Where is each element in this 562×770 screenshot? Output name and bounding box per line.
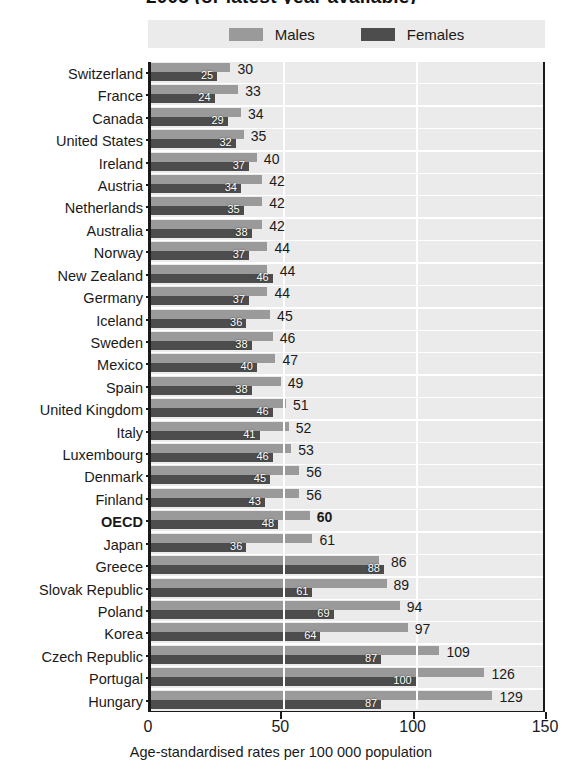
- chart-row: 4437: [151, 286, 543, 307]
- bar-males: [151, 310, 270, 319]
- bar-males: [151, 489, 299, 498]
- y-axis-label: Sweden: [0, 333, 143, 354]
- chart-row: 126100: [151, 667, 543, 688]
- bar-females: [151, 475, 270, 484]
- bar-males: [151, 646, 439, 655]
- y-axis-label: Poland: [0, 602, 143, 623]
- bar-males: [151, 601, 400, 610]
- y-axis-label: Spain: [0, 378, 143, 399]
- value-label-females: 32: [219, 136, 231, 149]
- plot-inner: 3025332434293532403742344235423844374446…: [151, 62, 543, 709]
- bar-males: [151, 242, 267, 251]
- y-axis-labels: SwitzerlandFranceCanadaUnited StatesIrel…: [0, 62, 143, 712]
- value-label-females: 36: [230, 316, 242, 329]
- value-label-males: 30: [237, 62, 253, 77]
- value-label-males: 97: [415, 622, 431, 637]
- chart-row: 3324: [151, 84, 543, 105]
- value-label-females: 69: [317, 607, 329, 620]
- y-axis-label: Australia: [0, 221, 143, 242]
- value-label-females: 40: [241, 360, 253, 373]
- chart-row: 8688: [151, 555, 543, 576]
- value-label-females: 38: [235, 338, 247, 351]
- value-label-females: 46: [256, 405, 268, 418]
- gridline: [283, 62, 285, 709]
- bar-males: [151, 85, 238, 94]
- bar-males: [151, 691, 492, 700]
- chart-row: 4938: [151, 376, 543, 397]
- value-label-males: 33: [245, 84, 261, 99]
- chart-row: 12987: [151, 690, 543, 711]
- value-label-females: 34: [225, 181, 237, 194]
- value-label-males: 49: [288, 376, 304, 391]
- y-axis-label: Ireland: [0, 154, 143, 175]
- y-axis-label: Switzerland: [0, 64, 143, 85]
- chart-row: 4446: [151, 264, 543, 285]
- value-label-males: 44: [274, 241, 290, 256]
- bar-females: [151, 700, 381, 709]
- chart-row: 9469: [151, 600, 543, 621]
- chart-row: 4437: [151, 241, 543, 262]
- chart-row: 6048: [151, 510, 543, 531]
- y-axis-label: Netherlands: [0, 198, 143, 219]
- bar-males: [151, 108, 241, 117]
- value-label-females: 100: [393, 674, 411, 687]
- value-label-males: 42: [269, 174, 285, 189]
- value-label-males: 35: [251, 129, 267, 144]
- y-axis-label: Austria: [0, 176, 143, 197]
- value-label-females: 46: [256, 450, 268, 463]
- value-label-females: 45: [254, 472, 266, 485]
- y-axis-label: Korea: [0, 624, 143, 645]
- chart-row: 5645: [151, 465, 543, 486]
- value-label-females: 24: [198, 91, 210, 104]
- value-label-females: 64: [304, 629, 316, 642]
- bar-males: [151, 422, 289, 431]
- bar-males: [151, 668, 484, 677]
- bar-males: [151, 332, 273, 341]
- y-axis-label: Finland: [0, 490, 143, 511]
- value-label-males: 51: [293, 398, 309, 413]
- chart-row: 10987: [151, 645, 543, 666]
- value-label-males: 61: [319, 533, 335, 548]
- y-axis-label: New Zealand: [0, 266, 143, 287]
- legend-item-males: Males: [229, 26, 315, 43]
- value-label-males: 52: [296, 421, 312, 436]
- x-axis-tick-labels: 050100150: [0, 718, 562, 738]
- x-axis-tick-label: 150: [532, 718, 559, 736]
- value-label-males: 94: [407, 600, 423, 615]
- bar-females: [151, 655, 381, 664]
- chart-legend: Males Females: [148, 20, 545, 48]
- x-axis-tick-label: 50: [271, 718, 289, 736]
- y-axis-label: Norway: [0, 243, 143, 264]
- y-axis-label: Canada: [0, 109, 143, 130]
- value-label-females: 36: [230, 540, 242, 553]
- x-axis-tick-label: 0: [144, 718, 153, 736]
- males-swatch: [229, 28, 263, 41]
- x-axis-tick-label: 100: [399, 718, 426, 736]
- chart-row: 4740: [151, 353, 543, 374]
- y-axis-label: Japan: [0, 535, 143, 556]
- y-axis-label: France: [0, 86, 143, 107]
- bar-males: [151, 354, 275, 363]
- value-label-females: 37: [233, 159, 245, 172]
- chart-row: 5643: [151, 488, 543, 509]
- value-label-males: 45: [277, 309, 293, 324]
- y-axis-label: Luxembourg: [0, 445, 143, 466]
- chart-row: 8961: [151, 578, 543, 599]
- value-label-females: 48: [262, 517, 274, 530]
- bar-females: [151, 453, 273, 462]
- y-axis-label: Portugal: [0, 669, 143, 690]
- y-axis-label: United States: [0, 131, 143, 152]
- chart-title: 2005 (or latest year available): [0, 0, 562, 4]
- y-axis-label: Italy: [0, 423, 143, 444]
- value-label-females: 37: [233, 293, 245, 306]
- chart-row: 4638: [151, 331, 543, 352]
- bar-males: [151, 556, 379, 565]
- value-label-females: 25: [201, 69, 213, 82]
- chart-row: 4238: [151, 219, 543, 240]
- chart-row: 9764: [151, 622, 543, 643]
- value-label-females: 61: [296, 585, 308, 598]
- bar-females: [151, 588, 312, 597]
- bar-females: [151, 408, 273, 417]
- plot-area: 3025332434293532403742344235423844374446…: [148, 62, 545, 712]
- chart-row: 4234: [151, 174, 543, 195]
